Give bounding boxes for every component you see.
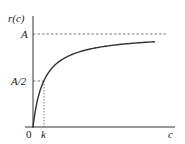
- origin-label: 0: [26, 128, 32, 140]
- curve-r-of-c: [33, 42, 155, 127]
- michaelis-menten-chart: r(c) A A/2 0 k c: [0, 0, 185, 144]
- x-tick-k: k: [41, 128, 47, 140]
- y-axis-label: r(c): [8, 12, 25, 25]
- y-tick-A: A: [20, 28, 28, 40]
- x-axis-label: c: [168, 128, 173, 140]
- y-tick-A-half: A/2: [10, 75, 27, 87]
